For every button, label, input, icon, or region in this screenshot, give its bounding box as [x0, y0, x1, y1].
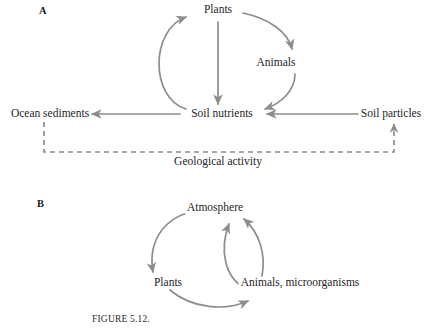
path-label-geological-activity: Geological activity — [174, 156, 262, 168]
panel-a-letter: A — [39, 6, 47, 17]
node-label-plants-a: Plants — [202, 4, 234, 16]
node-label-soil-nutrients: Soil nutrients — [189, 108, 255, 120]
node-label-ocean-sediments: Ocean sediments — [9, 108, 91, 120]
node-label-plants-b: Plants — [152, 277, 184, 289]
edge-soil-nutrients-to-plants — [159, 17, 186, 109]
panel-b-letter: B — [37, 199, 44, 210]
edge-animals-to-soil-nutrients — [265, 74, 295, 109]
edge-atmosphere-to-plants — [152, 212, 190, 272]
panel-a-edges — [44, 13, 394, 152]
node-label-atmosphere: Atmosphere — [185, 202, 245, 214]
node-label-animals-microorganisms: Animals, microorganisms — [239, 277, 362, 289]
edge-geological-activity — [44, 122, 394, 152]
node-label-soil-particles: Soil particles — [359, 108, 423, 120]
edge-plants-to-animals-microorganisms — [170, 290, 248, 307]
edge-animals-to-atmosphere-outer — [244, 219, 263, 276]
panel-b-edges — [152, 212, 263, 307]
figure-container: A Plants Animals Soil nutrients Ocean se… — [0, 0, 428, 330]
edge-plants-to-animals — [243, 13, 292, 49]
node-label-animals-a: Animals — [255, 57, 298, 69]
figure-caption: FIGURE 5.12. — [92, 315, 150, 325]
